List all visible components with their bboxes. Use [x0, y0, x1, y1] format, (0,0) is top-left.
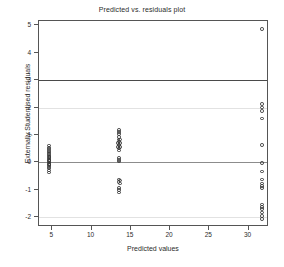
- x-tick-mark: [169, 226, 170, 230]
- x-tick-label: 20: [165, 231, 172, 238]
- y-tick-mark: [34, 107, 38, 108]
- y-tick-mark: [34, 216, 38, 217]
- y-tick-mark: [34, 189, 38, 190]
- y-axis-label: Externally Studentised residuals: [24, 34, 31, 194]
- x-tick-label: 15: [126, 231, 133, 238]
- x-tick-label: 25: [205, 231, 212, 238]
- data-point: [260, 170, 264, 174]
- x-tick-label: 30: [244, 231, 251, 238]
- plot-area: [38, 20, 268, 226]
- y-tick-mark: [34, 161, 38, 162]
- data-point: [260, 117, 264, 121]
- data-point: [260, 109, 264, 113]
- x-axis-label: Predicted values: [38, 245, 268, 252]
- data-point: [260, 178, 264, 182]
- data-point: [260, 217, 264, 221]
- x-tick-mark: [130, 226, 131, 230]
- reference-line-y3: [39, 80, 267, 81]
- x-tick-mark: [208, 226, 209, 230]
- x-tick-mark: [91, 226, 92, 230]
- data-point: [260, 186, 264, 190]
- y-tick-mark: [34, 79, 38, 80]
- x-tick-mark: [248, 226, 249, 230]
- x-tick-mark: [51, 226, 52, 230]
- y-tick-mark: [34, 52, 38, 53]
- reference-line-y2: [39, 108, 267, 109]
- data-point: [47, 171, 51, 175]
- data-point: [260, 27, 264, 31]
- y-tick-label: 5: [27, 21, 31, 28]
- y-tick-mark: [34, 24, 38, 25]
- chart-title: Predicted vs. residuals plot: [0, 6, 284, 13]
- x-tick-label: 10: [87, 231, 94, 238]
- y-tick-label: -2: [25, 213, 31, 220]
- reference-line-y0: [39, 162, 267, 163]
- reference-line-yneg2: [39, 217, 267, 218]
- data-point: [117, 149, 121, 153]
- y-tick-mark: [34, 134, 38, 135]
- chart-figure: Predicted vs. residuals plot 51015202530…: [0, 0, 284, 267]
- data-point: [118, 182, 122, 186]
- data-point: [260, 161, 264, 165]
- data-point: [260, 143, 264, 147]
- data-point: [117, 191, 121, 195]
- x-tick-label: 5: [50, 231, 54, 238]
